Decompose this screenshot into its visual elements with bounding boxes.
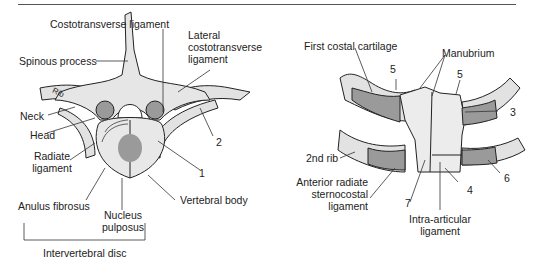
label-num-6: 6	[504, 172, 510, 184]
label-anterior-radiate-1: Anterior radiate	[290, 176, 368, 188]
label-vertebral-body: Vertebral body	[180, 194, 248, 206]
label-intervertebral-disc: Intervertebral disc	[43, 247, 126, 259]
label-lateral-costotransverse-3: ligament	[188, 53, 228, 65]
label-neck: Neck	[20, 110, 44, 122]
label-intra-articular-2: ligament	[405, 225, 475, 237]
label-intra-articular-1: Intra-articular	[405, 213, 475, 225]
sternum-drawing	[338, 74, 525, 172]
label-spinous-process: Spinous process	[19, 55, 97, 67]
label-anterior-radiate-2: sternocostal	[290, 188, 368, 200]
label-anulus-fibrosus: Anulus fibrosus	[18, 200, 90, 212]
label-anterior-radiate-3: ligament	[290, 200, 368, 212]
label-radiate-ligament-1: Radiate	[30, 150, 74, 162]
label-costotransverse-ligament: Costotransverse ligament	[50, 18, 169, 30]
label-lateral-costotransverse-1: Lateral	[188, 29, 220, 41]
label-num-7: 7	[405, 197, 411, 209]
label-nucleus-pulposus-1: Nucleus	[100, 209, 146, 221]
label-nucleus-pulposus-2: pulposus	[100, 221, 146, 233]
label-num-4: 4	[467, 184, 473, 196]
label-first-costal-cartilage: First costal cartilage	[304, 40, 397, 52]
label-num-3: 3	[510, 106, 516, 118]
label-num-5a: 5	[390, 63, 396, 75]
label-head: Head	[30, 129, 55, 141]
label-num-2: 2	[216, 136, 222, 148]
label-num-1: 1	[199, 167, 205, 179]
label-lateral-costotransverse-2: costotransverse	[188, 41, 262, 53]
label-radiate-ligament-2: ligament	[30, 162, 74, 174]
label-2nd-rib: 2nd rib	[306, 152, 338, 164]
label-manubrium: Manubrium	[442, 47, 495, 59]
label-num-5b: 5	[457, 68, 463, 80]
